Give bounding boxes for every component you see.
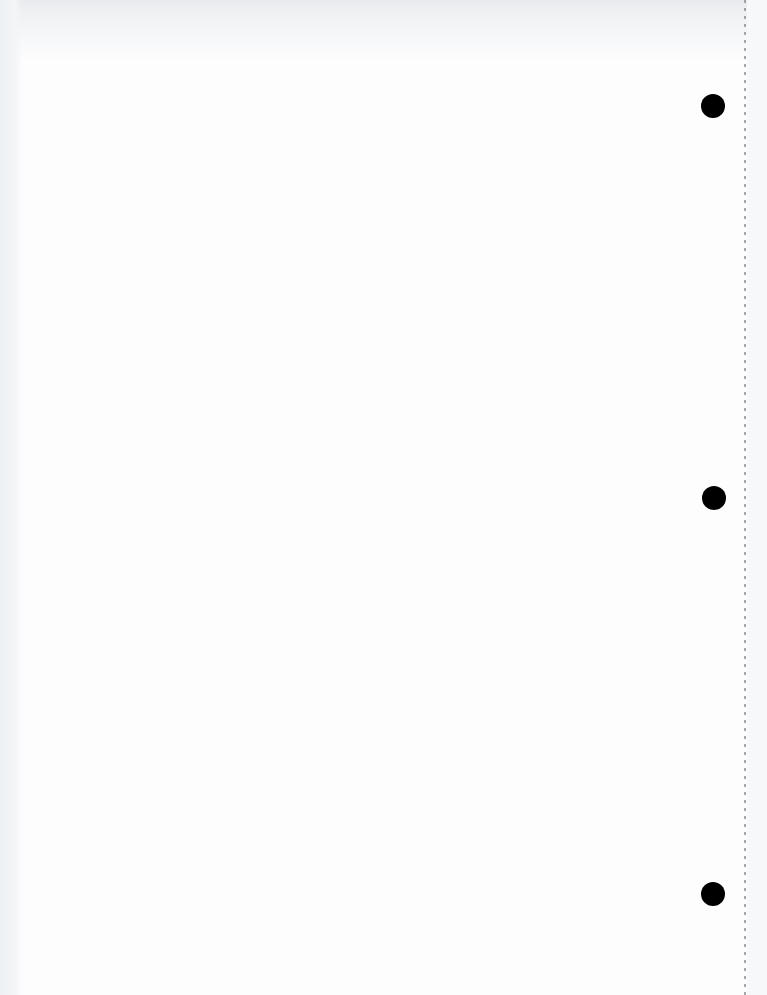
blank-page	[0, 0, 767, 995]
perforation-line	[744, 0, 746, 995]
scan-shadow-left	[0, 0, 22, 995]
scan-shadow-top	[0, 0, 767, 62]
right-margin-strip	[747, 0, 767, 995]
punch-hole-top	[701, 94, 725, 118]
punch-hole-bottom	[701, 882, 725, 906]
punch-hole-middle	[702, 486, 726, 510]
